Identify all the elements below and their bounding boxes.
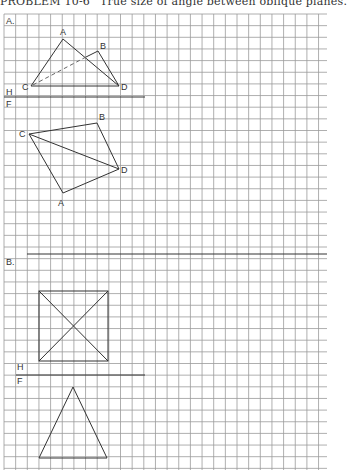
point-c-front: C bbox=[19, 129, 26, 139]
edge-bc-visible bbox=[86, 51, 98, 57]
point-b-top: B bbox=[100, 41, 106, 51]
point-a-front: A bbox=[58, 198, 64, 208]
section-b-label: B. bbox=[6, 257, 15, 267]
section-a-label: A. bbox=[6, 16, 15, 26]
point-a-top: A bbox=[60, 27, 66, 37]
fold-b-h-label: H bbox=[17, 362, 24, 372]
edge-ad bbox=[63, 39, 119, 86]
point-c-top: C bbox=[22, 82, 29, 92]
point-d-top: D bbox=[121, 82, 128, 92]
edge-ca bbox=[29, 134, 63, 193]
point-b-front: B bbox=[99, 112, 105, 122]
grid bbox=[4, 14, 327, 470]
point-d-front: D bbox=[121, 165, 128, 175]
edge-ad bbox=[63, 169, 119, 193]
edge-ca bbox=[31, 39, 63, 86]
fold-a-f-label: F bbox=[6, 99, 12, 109]
fold-a-h-label: H bbox=[6, 87, 13, 97]
fold-b-f-label: F bbox=[17, 376, 23, 386]
